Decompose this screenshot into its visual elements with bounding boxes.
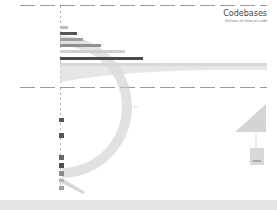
marker: [59, 118, 64, 122]
triangle-shape: [235, 104, 266, 132]
marker: [59, 171, 64, 176]
marker: [59, 186, 64, 190]
wedge: [60, 66, 267, 82]
bar: [60, 38, 83, 41]
bar: [60, 44, 101, 47]
small-box: [250, 148, 264, 165]
marker: [59, 155, 64, 160]
footer-bar: [0, 200, 277, 210]
bar: [60, 57, 143, 60]
decorative-overlay: [0, 0, 277, 200]
marker: [59, 163, 64, 168]
bar: [60, 63, 267, 66]
bar: [60, 32, 77, 35]
small-box-label: [253, 160, 261, 162]
bar: [60, 50, 125, 53]
marker: [59, 133, 64, 138]
bar: [60, 26, 68, 29]
marker: [59, 179, 64, 182]
